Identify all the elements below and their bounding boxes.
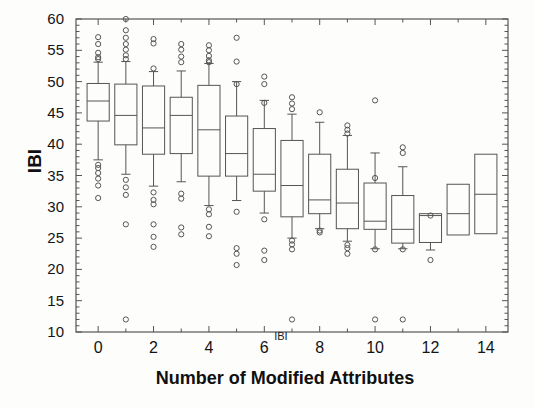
outlier-point bbox=[123, 41, 128, 46]
box-rect bbox=[170, 97, 192, 153]
outlier-point bbox=[96, 165, 101, 170]
y-tick-label: 50 bbox=[30, 73, 64, 90]
outlier-point bbox=[262, 217, 267, 222]
outlier-point bbox=[123, 35, 128, 40]
outlier-point bbox=[289, 242, 294, 247]
outlier-point bbox=[372, 317, 377, 322]
outlier-point bbox=[289, 317, 294, 322]
x-tick-label: 0 bbox=[83, 339, 113, 357]
y-tick-label: 25 bbox=[30, 229, 64, 246]
boxplot-figure: IBI Number of Modified Attributes 605550… bbox=[0, 0, 535, 408]
boxplot-group bbox=[115, 16, 137, 322]
outlier-point bbox=[345, 246, 350, 251]
x-tick-label: 8 bbox=[305, 339, 335, 357]
box-rect bbox=[253, 129, 275, 192]
outlier-point bbox=[262, 257, 267, 262]
outlier-point bbox=[123, 317, 128, 322]
outlier-point bbox=[179, 232, 184, 237]
outlier-point bbox=[234, 251, 239, 256]
x-tick-label: 10 bbox=[360, 339, 390, 357]
outlier-point bbox=[206, 43, 211, 48]
outlier-point bbox=[123, 222, 128, 227]
axes-frame bbox=[76, 19, 508, 332]
inner-annotation: IBI bbox=[266, 330, 296, 342]
y-tick-label: 40 bbox=[30, 135, 64, 152]
outlier-point bbox=[123, 177, 128, 182]
outlier-point bbox=[179, 225, 184, 230]
boxplot-group bbox=[309, 110, 331, 235]
outlier-point bbox=[123, 28, 128, 33]
y-tick-label: 60 bbox=[30, 10, 64, 27]
outlier-point bbox=[123, 192, 128, 197]
outlier-point bbox=[123, 47, 128, 52]
box-rect bbox=[281, 140, 303, 216]
outlier-point bbox=[345, 251, 350, 256]
boxplot-group bbox=[419, 213, 441, 263]
boxplot-group bbox=[364, 98, 386, 322]
x-tick-label: 4 bbox=[194, 339, 224, 357]
outlier-point bbox=[317, 110, 322, 115]
outlier-point bbox=[96, 35, 101, 40]
outlier-point bbox=[206, 234, 211, 239]
outlier-point bbox=[123, 56, 128, 61]
outlier-point bbox=[206, 207, 211, 212]
box-rect bbox=[115, 84, 137, 145]
outlier-point bbox=[179, 191, 184, 196]
outlier-point bbox=[179, 41, 184, 46]
outlier-point bbox=[96, 176, 101, 181]
outlier-point bbox=[206, 212, 211, 217]
outlier-point bbox=[428, 257, 433, 262]
box-rect bbox=[226, 116, 248, 176]
outlier-point bbox=[96, 183, 101, 188]
outlier-point bbox=[179, 54, 184, 59]
boxplot-group bbox=[198, 43, 220, 239]
boxplot-group bbox=[392, 145, 414, 322]
outlier-point bbox=[151, 244, 156, 249]
y-tick-label: 15 bbox=[30, 292, 64, 309]
box-rect bbox=[309, 154, 331, 213]
y-tick-label: 35 bbox=[30, 167, 64, 184]
box-rect bbox=[87, 83, 109, 121]
box-rect bbox=[142, 86, 164, 154]
y-tick-label: 30 bbox=[30, 198, 64, 215]
outlier-point bbox=[289, 107, 294, 112]
outlier-point bbox=[234, 246, 239, 251]
outlier-point bbox=[262, 248, 267, 253]
outlier-point bbox=[289, 247, 294, 252]
outlier-point bbox=[234, 209, 239, 214]
outlier-point bbox=[262, 74, 267, 79]
outlier-point bbox=[151, 66, 156, 71]
x-tick-label: 2 bbox=[139, 339, 169, 357]
outlier-point bbox=[96, 170, 101, 175]
y-tick-label: 55 bbox=[30, 41, 64, 58]
outlier-point bbox=[179, 196, 184, 201]
boxplot-group bbox=[142, 36, 164, 249]
outlier-point bbox=[151, 234, 156, 239]
outlier-point bbox=[372, 98, 377, 103]
outlier-point bbox=[289, 101, 294, 106]
outlier-point bbox=[96, 195, 101, 200]
outlier-point bbox=[400, 150, 405, 155]
outlier-point bbox=[400, 145, 405, 150]
outlier-point bbox=[151, 222, 156, 227]
boxplot-group bbox=[170, 41, 192, 237]
x-tick-label: 14 bbox=[471, 339, 501, 357]
x-axis-title: Number of Modified Attributes bbox=[60, 368, 510, 389]
outlier-point bbox=[179, 60, 184, 65]
boxplot-group bbox=[253, 74, 275, 263]
outlier-point bbox=[262, 82, 267, 87]
outlier-point bbox=[289, 95, 294, 100]
boxplot-group bbox=[226, 35, 248, 267]
outlier-point bbox=[179, 47, 184, 52]
outlier-point bbox=[123, 185, 128, 190]
y-tick-label: 45 bbox=[30, 104, 64, 121]
outlier-point bbox=[400, 317, 405, 322]
x-tick-label: 12 bbox=[415, 339, 445, 357]
box-rect bbox=[198, 85, 220, 176]
outlier-point bbox=[151, 190, 156, 195]
boxplot-group bbox=[447, 184, 469, 235]
box-rect bbox=[392, 196, 414, 244]
box-rect bbox=[364, 183, 386, 229]
outlier-point bbox=[234, 59, 239, 64]
outlier-point bbox=[206, 224, 211, 229]
